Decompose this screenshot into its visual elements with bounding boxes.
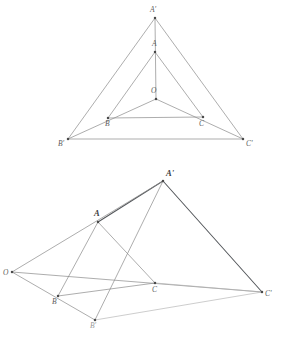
vertex-A-prime <box>162 180 165 183</box>
ray-O-Bp <box>12 272 95 320</box>
label-B: B <box>105 119 110 128</box>
edge-A-C <box>98 222 155 283</box>
vertex-O <box>11 271 14 274</box>
label-B-prime: B' <box>58 139 65 148</box>
edge-A-B <box>108 52 155 118</box>
ray-O-Ap <box>12 181 163 272</box>
vertex-O <box>155 98 158 101</box>
spatial-perspective-triangles-edges <box>12 181 262 320</box>
edge-A-C <box>155 52 203 117</box>
label-A-prime: A' <box>165 168 175 178</box>
vertex-B <box>57 295 60 298</box>
plane-perspective-triangles-edges <box>68 18 243 139</box>
vertex-B-prime <box>67 138 70 141</box>
figure-canvas: A'AOBCB'C' A'AOBCB'C' <box>0 0 284 339</box>
vertex-C-prime <box>242 138 245 141</box>
edge-Ap-Bp <box>68 18 155 139</box>
vertex-C <box>154 282 157 285</box>
ray-O-Bp <box>68 99 156 139</box>
spatial-perspective-triangles-points: A'AOBCB'C' <box>3 168 272 330</box>
vertex-A-prime <box>154 17 157 20</box>
edge-A-B <box>58 222 98 296</box>
label-C: C <box>199 119 205 128</box>
label-A-prime: A' <box>149 5 157 14</box>
label-O: O <box>151 86 157 95</box>
geometry-figure: A'AOBCB'C' A'AOBCB'C' <box>0 0 284 339</box>
label-O: O <box>3 268 9 277</box>
vertex-C-prime <box>261 291 264 294</box>
edge-B-C <box>58 283 155 296</box>
edge-C-Cp <box>155 283 262 292</box>
vertex-A <box>154 51 157 54</box>
label-C-prime: C' <box>246 139 253 148</box>
label-C-prime: C' <box>265 289 272 298</box>
vertex-C <box>202 116 205 119</box>
label-B: B <box>52 297 57 306</box>
upper-diagram: A'AOBCB'C' <box>58 5 253 148</box>
vertex-A <box>97 221 100 224</box>
edge-B-C <box>108 117 203 118</box>
lower-diagram: A'AOBCB'C' <box>3 168 272 330</box>
edge-Ap-Cp <box>163 181 262 292</box>
edge-Bp-Cp <box>95 292 262 320</box>
label-A: A <box>93 208 100 218</box>
label-C: C <box>152 285 158 294</box>
label-B-prime: B' <box>90 321 97 330</box>
label-A: A <box>151 39 157 48</box>
